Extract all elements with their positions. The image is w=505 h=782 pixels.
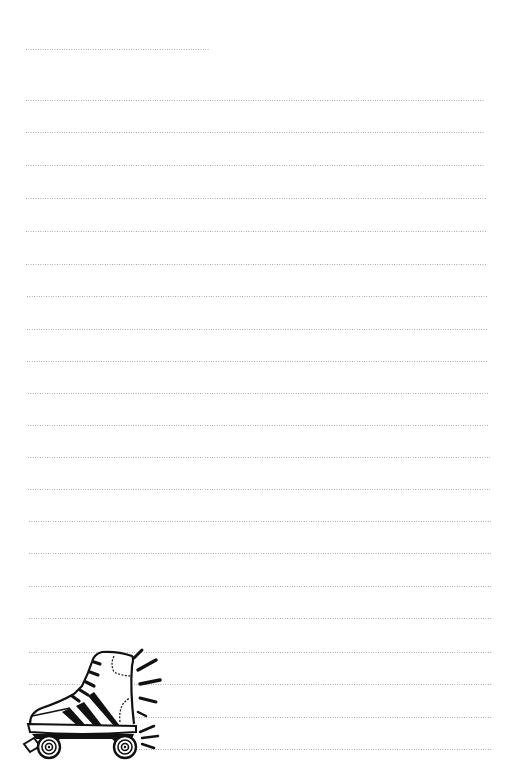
writing-rule	[28, 393, 489, 394]
writing-rule	[29, 618, 492, 619]
writing-rule	[28, 489, 490, 490]
writing-rule	[28, 425, 489, 426]
writing-rule	[29, 586, 491, 587]
writing-rule	[27, 329, 488, 330]
lined-page	[0, 0, 505, 782]
writing-rule	[28, 457, 490, 458]
writing-rule	[29, 553, 491, 554]
writing-rule	[27, 361, 488, 362]
writing-rule	[29, 521, 491, 522]
writing-rule	[26, 231, 486, 232]
writing-rule	[27, 296, 487, 297]
writing-rule	[26, 264, 487, 265]
header-rule	[26, 49, 210, 50]
writing-rule	[26, 198, 486, 199]
writing-rule	[26, 100, 485, 101]
writing-rule	[26, 165, 485, 166]
writing-rule	[26, 132, 485, 133]
roller-skate-icon	[22, 646, 162, 761]
